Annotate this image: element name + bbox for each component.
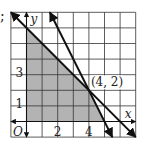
y-tick-label: 3 <box>16 66 24 80</box>
point-annotation: (4, 2) <box>91 75 123 89</box>
origin-label: O <box>13 125 23 139</box>
chart: 2413Oyx(4, 2) <box>0 0 143 142</box>
y-tick-label: 1 <box>16 97 24 111</box>
x-tick-label: 2 <box>54 125 62 139</box>
y-axis-label: y <box>30 12 38 26</box>
x-axis-label: x <box>125 107 132 121</box>
x-tick-label: 4 <box>85 125 93 139</box>
